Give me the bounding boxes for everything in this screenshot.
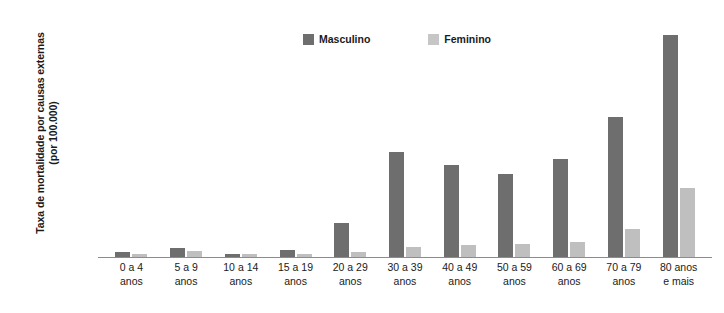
x-tick-label: 0 a 4anos <box>104 261 159 288</box>
bar-feminino <box>406 247 421 257</box>
x-tick-label-line-1: 50 a 59 <box>497 261 532 273</box>
x-tick-label-line-1: 60 a 69 <box>552 261 587 273</box>
bar-masculino <box>280 250 295 257</box>
x-tick-label-line-2: anos <box>213 275 268 289</box>
x-tick-label: 40 a 49anos <box>432 261 487 288</box>
x-tick-label: 60 a 69anos <box>542 261 597 288</box>
x-tick-label: 10 a 14anos <box>213 261 268 288</box>
bar-feminino <box>461 245 476 257</box>
x-tick-label-line-2: anos <box>378 275 433 289</box>
bar-chart: Taxa de mortalidade por causas externas … <box>0 0 724 313</box>
x-tick-label: 50 a 59anos <box>487 261 542 288</box>
x-axis-labels: 0 a 4anos5 a 9anos10 a 14anos15 a 19anos… <box>0 261 724 301</box>
bar-feminino <box>625 229 640 257</box>
x-tick-label-line-1: 0 a 4 <box>120 261 143 273</box>
x-tick-label-line-1: 15 a 19 <box>278 261 313 273</box>
bar-masculino <box>553 159 568 257</box>
bar-masculino <box>444 165 459 257</box>
x-tick-label-line-1: 30 a 39 <box>387 261 422 273</box>
x-tick-label: 15 a 19anos <box>268 261 323 288</box>
x-tick-label-line-2: anos <box>487 275 542 289</box>
x-tick-label-line-1: 40 a 49 <box>442 261 477 273</box>
bar-masculino <box>389 152 404 257</box>
x-tick-label: 20 a 29anos <box>323 261 378 288</box>
x-tick-label-line-2: anos <box>597 275 652 289</box>
x-tick-label-line-1: 80 anos <box>660 261 697 273</box>
x-tick-label-line-2: e mais <box>651 275 706 289</box>
bar-masculino <box>608 117 623 257</box>
bar-masculino <box>498 174 513 257</box>
bar-masculino <box>663 35 678 258</box>
x-tick-label-line-1: 20 a 29 <box>333 261 368 273</box>
x-tick-label-line-1: 70 a 79 <box>606 261 641 273</box>
x-tick-label-line-2: anos <box>323 275 378 289</box>
x-tick-label: 80 anose mais <box>651 261 706 288</box>
x-tick-label-line-2: anos <box>432 275 487 289</box>
x-tick-label: 30 a 39anos <box>378 261 433 288</box>
bar-feminino <box>680 188 695 257</box>
x-tick-label-line-2: anos <box>104 275 159 289</box>
bar-masculino <box>334 223 349 257</box>
x-tick-label: 5 a 9anos <box>159 261 214 288</box>
bar-feminino <box>515 244 530 257</box>
bar-feminino <box>570 242 585 257</box>
x-tick-label-line-1: 10 a 14 <box>223 261 258 273</box>
x-tick-label-line-2: anos <box>159 275 214 289</box>
x-tick-label: 70 a 79anos <box>597 261 652 288</box>
x-axis-baseline <box>98 257 712 258</box>
x-tick-label-line-2: anos <box>542 275 597 289</box>
x-tick-label-line-1: 5 a 9 <box>174 261 197 273</box>
bar-masculino <box>170 248 185 257</box>
x-tick-label-line-2: anos <box>268 275 323 289</box>
